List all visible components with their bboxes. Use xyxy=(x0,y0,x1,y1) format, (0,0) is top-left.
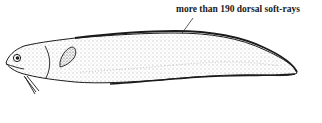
pelvic-fin-rays xyxy=(24,76,39,94)
pupil xyxy=(16,56,20,60)
fish-illustration xyxy=(0,0,322,123)
